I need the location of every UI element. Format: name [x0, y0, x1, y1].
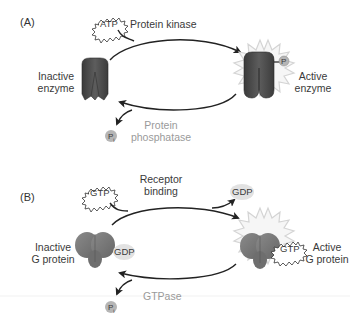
active-g-line2: G protein — [302, 253, 350, 265]
active-enzyme-line1: Active — [292, 70, 334, 82]
inactive-enzyme-line1: Inactive — [36, 70, 76, 82]
reverse-arrow-a — [120, 94, 236, 110]
active-enzyme-line2: enzyme — [292, 82, 334, 94]
gtpase-label: GTPase — [143, 290, 182, 302]
gdp-bound-label: GDP — [114, 246, 135, 258]
inactive-g-protein-icon — [75, 232, 115, 268]
atp-label: ATP — [100, 18, 118, 30]
pi-sub-a: i — [113, 137, 114, 143]
inactive-g-protein-label: Inactive G protein — [28, 241, 78, 265]
inactive-enzyme-label: Inactive enzyme — [36, 70, 76, 94]
gtp-bound-label: GTP — [280, 243, 300, 255]
receptor-binding-label: Receptor binding — [136, 173, 186, 197]
gdp-release-arrow — [212, 200, 234, 208]
panel-label-a: (A) — [20, 16, 35, 28]
phosphate-label-a: P — [281, 56, 286, 68]
phosphatase-line2: phosphatase — [130, 131, 192, 143]
pi-label-a: Pi — [108, 131, 114, 146]
inactive-g-line2: G protein — [28, 253, 78, 265]
phosphatase-line1: Protein — [130, 119, 192, 131]
inactive-g-line1: Inactive — [28, 241, 78, 253]
active-g-protein-label: Active G protein — [302, 241, 350, 265]
forward-arrow-a — [110, 40, 240, 60]
receptor-binding-line1: Receptor — [136, 173, 186, 185]
diagram-canvas — [0, 0, 350, 323]
protein-kinase-label: Protein kinase — [130, 18, 197, 30]
gtp-label: GTP — [90, 187, 110, 199]
forward-arrow-b — [112, 208, 238, 225]
gdp-released-label: GDP — [232, 186, 253, 198]
pi-label-b: Pi — [108, 302, 114, 317]
active-g-line1: Active — [302, 241, 350, 253]
active-enzyme-label: Active enzyme — [292, 70, 334, 94]
inactive-enzyme-line2: enzyme — [36, 82, 76, 94]
panel-label-b: (B) — [20, 191, 35, 203]
pi-release-arrow-b — [117, 280, 132, 294]
protein-phosphatase-label: Protein phosphatase — [130, 119, 192, 143]
inactive-enzyme-icon — [82, 58, 108, 100]
pi-sub-b: i — [113, 308, 114, 314]
reverse-arrow-b — [120, 264, 236, 279]
receptor-binding-line2: binding — [136, 185, 186, 197]
